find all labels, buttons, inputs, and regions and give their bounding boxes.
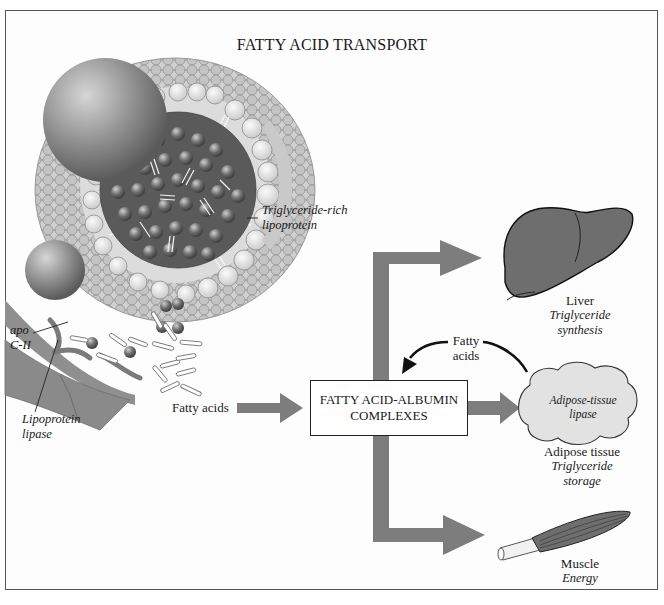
return-fatty-acids-label: Fatty acids <box>448 333 484 363</box>
return-label-line2: acids <box>448 348 484 363</box>
lipoprotein-particle <box>25 58 315 322</box>
muscle-role: Energy <box>530 571 630 586</box>
lipase-label-line2: lipase <box>22 427 81 442</box>
lipoprotein-lipase-label: Lipoprotein lipase <box>22 412 81 442</box>
lipase-label-line1: Lipoprotein <box>22 412 81 427</box>
apolipoprotein-small-sphere <box>25 240 85 300</box>
muscle-name: Muscle <box>530 556 630 571</box>
complex-box-line1: FATTY ACID-ALBUMIN <box>320 392 458 408</box>
muscle-label: Muscle Energy <box>530 556 630 586</box>
adipose-name: Adipose tissue <box>522 444 642 459</box>
apo-label-line1: apo <box>10 323 31 338</box>
arrow-to-adipose <box>468 392 520 424</box>
fatty-acid-albumin-complex-box: FATTY ACID-ALBUMIN COMPLEXES <box>310 380 468 436</box>
adipose-tissue-label: Adipose tissue Triglyceride storage <box>522 444 642 489</box>
liver-label: Liver Triglyceride synthesis <box>530 293 630 338</box>
arrow-to-complex <box>237 393 303 423</box>
apo-label-line2: C-II <box>10 338 31 353</box>
lipoprotein-label-line2: lipoprotein <box>262 218 347 233</box>
arrow-to-muscle <box>373 515 485 555</box>
apo-c2-label: apo C-II <box>10 323 31 353</box>
capillary-wall <box>5 300 140 430</box>
liver-icon <box>504 208 633 297</box>
lipoprotein-label-line1: Triglyceride-rich <box>262 203 347 218</box>
lipoprotein-label: Triglyceride-rich lipoprotein <box>262 203 347 233</box>
muscle-icon <box>498 511 630 560</box>
liver-role-line1: Triglyceride <box>530 308 630 323</box>
arrow-to-liver <box>373 240 482 276</box>
complex-box-line2: COMPLEXES <box>350 408 427 424</box>
adipose-lipase-label: Adipose-tissue lipase <box>528 393 638 421</box>
adipose-role-line2: storage <box>522 474 642 489</box>
adipose-role-line1: Triglyceride <box>522 459 642 474</box>
return-label-line1: Fatty <box>448 333 484 348</box>
apolipoprotein-large-sphere <box>43 58 167 182</box>
adipose-inner-line1: Adipose-tissue <box>528 393 638 407</box>
liver-role-line2: synthesis <box>530 323 630 338</box>
adipose-inner-line2: lipase <box>528 407 638 421</box>
liver-name: Liver <box>530 293 630 308</box>
fatty-acids-label: Fatty acids <box>172 400 229 415</box>
